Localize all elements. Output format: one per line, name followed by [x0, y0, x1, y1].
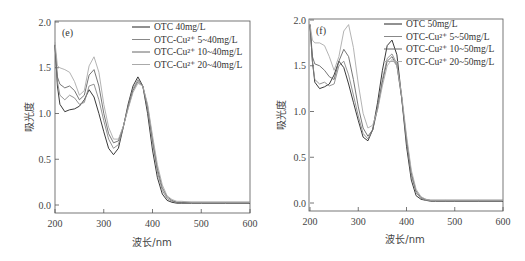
x-tick-label: 600 [496, 216, 511, 227]
x-tick-label: 200 [303, 216, 318, 227]
x-tick-label: 400 [145, 218, 160, 229]
y-tick-label: 0.0 [294, 198, 307, 209]
legend-entry: OTC 40mg/L [154, 22, 206, 32]
y-tick-label: 2.0 [294, 15, 307, 26]
x-axis-label: 波长/nm [385, 233, 424, 245]
legend: OTC 40mg/LOTC-Cu²⁺ 5~40mg/LOTC-Cu²⁺ 10~4… [132, 22, 242, 70]
y-tick-label: 0.5 [294, 152, 307, 163]
legend-entry: OTC-Cu²⁺ 5~50mg/L [406, 32, 490, 42]
legend-entry: OTC-Cu²⁺ 10~50mg/L [406, 44, 494, 54]
legend: OTC 50mg/LOTC-Cu²⁺ 5~50mg/LOTC-Cu²⁺ 10~5… [384, 19, 494, 67]
y-tick-label: 1.0 [39, 108, 52, 119]
x-tick-label: 300 [351, 216, 366, 227]
x-tick-label: 300 [96, 218, 111, 229]
uv-vis-spectra-figure: 200300400500600 0.00.51.01.52.0 (e) OTC … [0, 0, 525, 261]
y-tick-label: 1.5 [294, 60, 307, 71]
x-axis-label: 波长/nm [132, 236, 171, 248]
x-tick-label: 400 [399, 216, 414, 227]
legend-entry: OTC-Cu²⁺ 20~50mg/L [406, 57, 494, 67]
panel-label: (e) [62, 27, 73, 39]
y-tick-label: 1.0 [294, 106, 307, 117]
x-tick-label: 600 [243, 218, 258, 229]
legend-entry: OTC-Cu²⁺ 5~40mg/L [154, 35, 238, 45]
x-axis-ticks: 200300400500600 [303, 207, 511, 227]
y-axis-label: 吸光度 [23, 102, 35, 132]
y-tick-label: 2.0 [39, 17, 52, 28]
legend-entry: OTC-Cu²⁺ 10~40mg/L [154, 47, 242, 57]
panel-label: (f) [316, 25, 326, 37]
x-tick-label: 200 [48, 218, 63, 229]
y-tick-label: 0.0 [39, 200, 52, 211]
y-tick-label: 0.5 [39, 154, 52, 165]
chart-panel-f: 200300400500600 0.00.51.01.52.0 (f) OTC … [275, 15, 511, 246]
y-axis-ticks: 0.00.51.01.52.0 [39, 17, 60, 211]
y-tick-label: 1.5 [39, 62, 52, 73]
y-axis-label: 吸光度 [275, 100, 287, 130]
x-tick-label: 500 [194, 218, 209, 229]
chart-panel-e: 200300400500600 0.00.51.01.52.0 (e) OTC … [23, 17, 258, 249]
x-axis-ticks: 200300400500600 [48, 209, 258, 229]
x-tick-label: 500 [447, 216, 462, 227]
legend-entry: OTC 50mg/L [406, 19, 458, 29]
legend-entry: OTC-Cu²⁺ 20~40mg/L [154, 60, 242, 70]
